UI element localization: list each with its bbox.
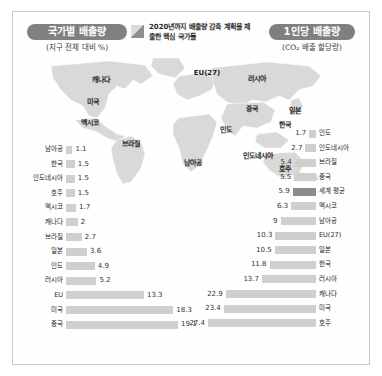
- bar-category-label: 중국: [19, 317, 63, 332]
- bar-category-label: 일본: [319, 243, 363, 258]
- bar: [66, 248, 87, 256]
- map-label-china: 중국: [246, 103, 258, 113]
- bar-row: 호주1.5: [19, 186, 199, 201]
- per-capita-title-pill: 1인당 배출량: [269, 24, 355, 40]
- bar-value-label: 6.3: [277, 199, 288, 214]
- bar: [66, 291, 144, 299]
- bar-value-label: 1.7: [79, 200, 90, 215]
- bar: [66, 321, 178, 329]
- bar-value-label: 4.9: [98, 259, 109, 274]
- bar-category-label: 미국: [19, 303, 63, 318]
- bar-row: 중국5.5: [187, 170, 363, 185]
- bar: [291, 202, 316, 210]
- bar-row: 남아공9: [187, 214, 363, 229]
- bar-row: 멕시코1.7: [19, 200, 199, 215]
- bar: [295, 159, 316, 167]
- bar: [66, 218, 78, 226]
- header: 국가별 배출량 (지구 전체 대비 %) 2020년까지 배출량 감축 계획을 …: [13, 12, 369, 60]
- bar-row: 한국1.5: [19, 157, 199, 172]
- bar: [66, 306, 173, 314]
- bar-row: 인도4.9: [19, 259, 199, 274]
- bar-category-label: 캐나다: [19, 215, 63, 230]
- bar-category-label: 인도: [319, 126, 363, 141]
- bar: [224, 305, 316, 313]
- bar: [305, 144, 316, 152]
- bar-category-label: 한국: [19, 157, 63, 172]
- map-label-mexico: 멕시코: [81, 117, 99, 127]
- by-country-bar-chart: 남아공1.1한국1.5인도네시아1.5호주1.5멕시코1.7캐나다2브라질2.7…: [19, 142, 199, 332]
- bar-row: 캐나다22.9: [187, 287, 363, 302]
- bar-value-label: 1.5: [78, 171, 89, 186]
- bar-value-label: 1.7: [295, 126, 306, 141]
- bar-value-label: 23.4: [205, 301, 221, 316]
- by-country-title-pill: 국가별 배출량: [27, 24, 127, 40]
- bar: [294, 173, 316, 181]
- bar-row: 한국11.8: [187, 257, 363, 272]
- map-label-russia: 러시아: [248, 73, 266, 83]
- bar: [66, 233, 82, 241]
- map-label-eu27: EU(27): [194, 69, 221, 77]
- infographic-page: 국가별 배출량 (지구 전체 대비 %) 2020년까지 배출량 감축 계획을 …: [0, 0, 382, 376]
- bar-category-label: 남아공: [19, 142, 63, 157]
- map-label-canada: 캐나다: [92, 74, 110, 84]
- bar-category-label: 브라질: [319, 155, 363, 170]
- bar-category-label: 멕시코: [19, 200, 63, 215]
- bar-row: 중국19.1: [19, 317, 199, 332]
- map-label-usa: 미국: [87, 96, 99, 106]
- bar-category-label: 러시아: [19, 273, 63, 288]
- bar: [208, 319, 316, 327]
- bar-row: 러시아13.7: [187, 272, 363, 287]
- bar-row: 러시아5.2: [19, 273, 199, 288]
- bar-category-label: 세계 평균: [319, 184, 363, 199]
- bar: [66, 160, 75, 168]
- bar: [66, 262, 95, 270]
- bar-value-label: 5.4: [281, 155, 292, 170]
- bar-category-label: 남아공: [319, 214, 363, 229]
- bar-row: 멕시코6.3: [187, 199, 363, 214]
- bar: [275, 246, 316, 254]
- bar-category-label: 호주: [319, 316, 363, 331]
- bar-row: 일본10.5: [187, 243, 363, 258]
- bar-row: 브라질2.7: [19, 230, 199, 245]
- bar: [309, 130, 316, 138]
- bar: [275, 232, 316, 240]
- bar-row: 인도1.7: [187, 126, 363, 141]
- bar-row: EU(27)10.3: [187, 228, 363, 243]
- bar: [66, 175, 75, 183]
- bar: [262, 275, 316, 283]
- bar-value-label: 2.7: [85, 230, 96, 245]
- bar-value-label: 10.3: [257, 228, 273, 243]
- bar-category-label: 브라질: [19, 230, 63, 245]
- bar-category-label: 호주: [19, 186, 63, 201]
- bar-row: 미국23.4: [187, 301, 363, 316]
- bar: [66, 189, 75, 197]
- bar-category-label: EU: [19, 288, 63, 303]
- bar-value-label: 1.5: [78, 157, 89, 172]
- bar: [226, 290, 316, 298]
- bar-value-label: 5.5: [280, 170, 291, 185]
- infographic-frame: 국가별 배출량 (지구 전체 대비 %) 2020년까지 배출량 감축 계획을 …: [12, 11, 370, 365]
- bar: [293, 188, 316, 196]
- bar-category-label: EU(27): [319, 228, 363, 243]
- by-country-subtitle: (지구 전체 대비 %): [27, 43, 127, 52]
- bar-category-label: 미국: [319, 301, 363, 316]
- per-capita-bar-chart: 인도1.7인도네시아2.7브라질5.4중국5.5세계 평균5.9멕시코6.3남아…: [187, 126, 363, 330]
- bar: [66, 204, 76, 212]
- bar: [270, 261, 317, 269]
- bar-category-label: 한국: [319, 257, 363, 272]
- diagonal-hatch-swatch-icon: [131, 25, 144, 38]
- bar-value-label: 9: [273, 214, 277, 229]
- bar-value-label: 10.5: [256, 243, 272, 258]
- bar-category-label: 인도네시아: [319, 141, 363, 156]
- bar-value-label: 2: [81, 215, 85, 230]
- bar-value-label: 13.3: [147, 288, 163, 303]
- bar-row: 캐나다2: [19, 215, 199, 230]
- bar-value-label: 2.7: [291, 141, 302, 156]
- bar-category-label: 러시아: [319, 272, 363, 287]
- bar-value-label: 5.9: [279, 184, 290, 199]
- bar: [281, 217, 316, 225]
- bar-value-label: 1.5: [78, 186, 89, 201]
- bar-category-label: 중국: [319, 170, 363, 185]
- per-capita-subtitle: (CO₂ 배출 할당량): [269, 43, 355, 52]
- bar-row: 호주27.4: [187, 316, 363, 331]
